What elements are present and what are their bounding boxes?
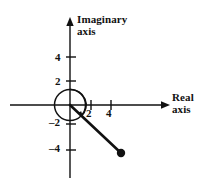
real-axis-arrowhead [161,101,170,108]
imaginary-axis-label-line2: axis [77,26,127,38]
complex-plane-figure: Imaginary axis Real axis 4 2 –2 –4 2 4 [0,0,197,183]
real-axis-label-line1: Real [172,92,194,104]
tick-label-real-2: 2 [86,108,92,120]
real-axis-label: Real axis [172,92,194,115]
tick-label-imaginary-minus-4: –4 [49,143,60,155]
tick-label-imaginary-4: 4 [55,52,61,64]
imaginary-axis-arrowhead [66,17,73,26]
tick-label-real-4: 4 [106,108,112,120]
real-axis-label-line2: axis [172,104,194,116]
imaginary-axis-label: Imaginary axis [77,14,127,37]
complex-number-vector [70,105,125,157]
tick-label-imaginary-minus-2: –2 [49,117,60,129]
imaginary-axis [66,17,73,178]
imaginary-axis-ticks [66,57,76,150]
tick-label-imaginary-2: 2 [55,76,61,88]
complex-number-point [117,149,125,157]
vector-line [70,105,121,153]
imaginary-axis-label-line1: Imaginary [77,14,127,26]
